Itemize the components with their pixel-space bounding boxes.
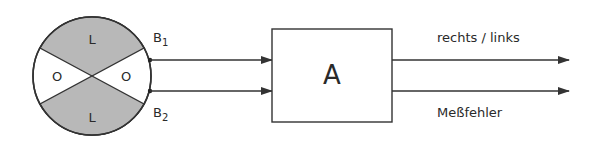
block-a-label: A — [323, 60, 341, 90]
diagram-canvas: L L O O B1 B2 A rechts / links Meßfehler — [0, 0, 598, 142]
sector-top-label: L — [88, 32, 96, 47]
sector-right-label: O — [121, 69, 131, 84]
output-label-direction: rechts / links — [437, 30, 520, 45]
sector-left-label: O — [52, 69, 62, 84]
terminal-b1-label: B1 — [153, 30, 168, 48]
sector-bottom-label: L — [88, 110, 96, 125]
output-label-error: Meßfehler — [437, 105, 503, 120]
terminal-b2-label: B2 — [153, 105, 168, 123]
